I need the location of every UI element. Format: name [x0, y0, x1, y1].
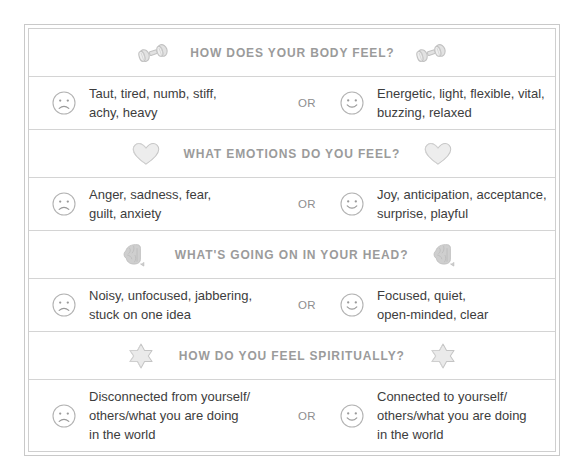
worksheet-table: HOW DOES YOUR BODY FEEL?	[28, 28, 556, 452]
negative-option-body[interactable]: Taut, tired, numb, stiff, achy, heavy	[33, 84, 283, 122]
section-title-spirit: HOW DO YOU FEEL SPIRITUALLY?	[179, 349, 405, 363]
sad-face-icon	[51, 90, 77, 116]
happy-face-icon	[339, 403, 365, 429]
sad-face-icon	[51, 191, 77, 217]
negative-option-emotions[interactable]: Anger, sadness, fear, guilt, anxiety	[33, 185, 283, 223]
answer-row-head: Noisy, unfocused, jabbering, stuck on on…	[29, 279, 555, 332]
or-label: OR	[283, 198, 331, 210]
negative-option-text: Disconnected from yourself/ others/what …	[89, 387, 250, 444]
dumbbell-icon	[414, 38, 448, 68]
section-title-body: HOW DOES YOUR BODY FEEL?	[190, 46, 394, 60]
dumbbell-icon	[136, 38, 170, 68]
brain-icon	[430, 240, 464, 270]
negative-option-text: Taut, tired, numb, stiff, achy, heavy	[89, 84, 217, 122]
star-icon	[124, 341, 158, 371]
section-header-spirit: HOW DO YOU FEEL SPIRITUALLY?	[29, 332, 555, 380]
positive-option-spirit[interactable]: Connected to yourself/ others/what you a…	[331, 387, 551, 444]
or-label: OR	[283, 97, 331, 109]
answer-row-body: Taut, tired, numb, stiff, achy, heavy OR…	[29, 77, 555, 130]
negative-option-text: Anger, sadness, fear, guilt, anxiety	[89, 185, 211, 223]
sad-face-icon	[51, 292, 77, 318]
negative-option-text: Noisy, unfocused, jabbering, stuck on on…	[89, 286, 252, 324]
section-header-head: WHAT'S GOING ON IN YOUR HEAD?	[29, 231, 555, 279]
negative-option-head[interactable]: Noisy, unfocused, jabbering, stuck on on…	[33, 286, 283, 324]
negative-option-spirit[interactable]: Disconnected from yourself/ others/what …	[33, 387, 283, 444]
section-header-body: HOW DOES YOUR BODY FEEL?	[29, 29, 555, 77]
heart-icon	[129, 139, 163, 169]
heart-icon	[421, 139, 455, 169]
answer-row-spirit: Disconnected from yourself/ others/what …	[29, 380, 555, 451]
or-label: OR	[283, 410, 331, 422]
positive-option-text: Energetic, light, flexible, vital, buzzi…	[377, 84, 545, 122]
brain-icon	[120, 240, 154, 270]
section-title-head: WHAT'S GOING ON IN YOUR HEAD?	[175, 248, 408, 262]
star-icon	[426, 341, 460, 371]
happy-face-icon	[339, 292, 365, 318]
section-header-emotions: WHAT EMOTIONS DO YOU FEEL?	[29, 130, 555, 178]
positive-option-emotions[interactable]: Joy, anticipation, acceptance, surprise,…	[331, 185, 551, 223]
worksheet-frame: HOW DOES YOUR BODY FEEL?	[24, 24, 560, 456]
positive-option-text: Focused, quiet, open-minded, clear	[377, 286, 488, 324]
positive-option-body[interactable]: Energetic, light, flexible, vital, buzzi…	[331, 84, 551, 122]
sad-face-icon	[51, 403, 77, 429]
positive-option-head[interactable]: Focused, quiet, open-minded, clear	[331, 286, 551, 324]
section-title-emotions: WHAT EMOTIONS DO YOU FEEL?	[184, 147, 401, 161]
answer-row-emotions: Anger, sadness, fear, guilt, anxiety OR …	[29, 178, 555, 231]
happy-face-icon	[339, 90, 365, 116]
happy-face-icon	[339, 191, 365, 217]
or-label: OR	[283, 299, 331, 311]
positive-option-text: Connected to yourself/ others/what you a…	[377, 387, 527, 444]
positive-option-text: Joy, anticipation, acceptance, surprise,…	[377, 185, 547, 223]
